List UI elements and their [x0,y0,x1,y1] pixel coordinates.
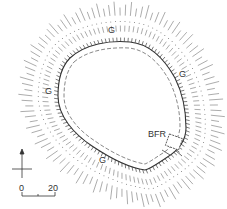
label-g-south: G [99,156,106,165]
outer-bank-hachures [18,2,224,207]
north-arrow-icon [12,149,32,178]
earthwork-plan: G G G G BFR 0 20 [0,0,227,209]
rampart-hachures [54,38,190,174]
inner-dashed-line [64,48,180,164]
scale-label-end: 20 [48,184,58,193]
label-g-east: G [179,70,186,79]
label-g-west: G [45,87,52,96]
scale-label-start: 0 [19,184,24,193]
label-g-north: G [108,26,115,35]
label-bfr: BFR [148,130,166,139]
